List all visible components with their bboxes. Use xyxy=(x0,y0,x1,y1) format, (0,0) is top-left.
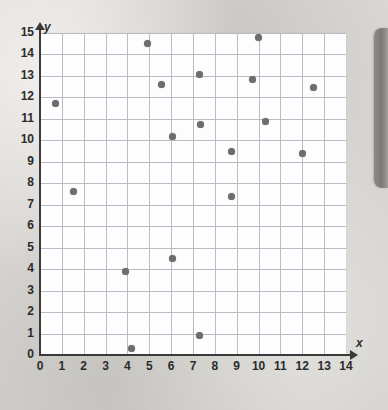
y-tick-label: 3 xyxy=(14,283,34,297)
gridline-horizontal xyxy=(40,334,346,335)
gridline-horizontal xyxy=(40,76,346,77)
gridline-vertical xyxy=(106,33,107,355)
y-tick-label: 8 xyxy=(14,175,34,189)
y-tick-label: 12 xyxy=(14,89,34,103)
y-axis-label: y xyxy=(44,20,51,34)
gridline-vertical xyxy=(259,33,260,355)
x-tick-label: 14 xyxy=(335,359,357,373)
data-point xyxy=(310,84,317,91)
gridline-vertical xyxy=(171,33,172,355)
y-tick-label: 6 xyxy=(14,218,34,232)
gridline-vertical xyxy=(193,33,194,355)
x-tick-label: 4 xyxy=(116,359,138,373)
gridline-vertical xyxy=(324,33,325,355)
y-tick-label: 4 xyxy=(14,261,34,275)
gridline-vertical xyxy=(215,33,216,355)
gridline-horizontal xyxy=(40,33,346,34)
x-tick-label: 8 xyxy=(204,359,226,373)
data-point xyxy=(158,81,165,88)
gridline-horizontal xyxy=(40,291,346,292)
data-point xyxy=(169,255,176,262)
gridline-horizontal xyxy=(40,248,346,249)
data-point xyxy=(262,118,269,125)
scatter-plot: x y 01234567891011121314 012345678910111… xyxy=(0,0,388,410)
gridline-horizontal xyxy=(40,183,346,184)
y-tick-label: 14 xyxy=(14,46,34,60)
data-point xyxy=(122,268,129,275)
y-tick-label: 11 xyxy=(14,111,34,125)
x-tick-label: 6 xyxy=(160,359,182,373)
x-axis-label: x xyxy=(356,336,363,350)
data-point xyxy=(144,40,151,47)
gridline-vertical xyxy=(237,33,238,355)
y-tick-label: 13 xyxy=(14,68,34,82)
gridline-horizontal xyxy=(40,97,346,98)
y-tick-label: 5 xyxy=(14,240,34,254)
y-tick-label: 2 xyxy=(14,304,34,318)
y-tick-label: 9 xyxy=(14,154,34,168)
x-tick-label: 7 xyxy=(182,359,204,373)
x-tick-label: 11 xyxy=(269,359,291,373)
x-tick-label: 12 xyxy=(291,359,313,373)
data-point xyxy=(228,193,235,200)
data-point xyxy=(299,150,306,157)
gridline-vertical xyxy=(280,33,281,355)
y-tick-label: 15 xyxy=(14,25,34,39)
gridline-vertical xyxy=(62,33,63,355)
y-axis-line xyxy=(39,30,41,356)
x-tick-label: 1 xyxy=(51,359,73,373)
x-tick-label: 9 xyxy=(226,359,248,373)
y-tick-label: 1 xyxy=(14,326,34,340)
gridline-vertical xyxy=(84,33,85,355)
gridline-horizontal xyxy=(40,226,346,227)
x-tick-label: 13 xyxy=(313,359,335,373)
x-tick-label: 0 xyxy=(29,359,51,373)
x-tick-label: 5 xyxy=(138,359,160,373)
gridline-horizontal xyxy=(40,162,346,163)
grid xyxy=(40,33,346,355)
x-axis-line xyxy=(40,354,352,356)
data-point xyxy=(255,34,262,41)
y-tick-label: 10 xyxy=(14,132,34,146)
gridline-horizontal xyxy=(40,119,346,120)
gridline-vertical xyxy=(302,33,303,355)
x-tick-label: 2 xyxy=(73,359,95,373)
gridline-vertical xyxy=(127,33,128,355)
data-point xyxy=(249,76,256,83)
x-tick-label: 10 xyxy=(248,359,270,373)
gridline-horizontal xyxy=(40,312,346,313)
x-tick-label: 3 xyxy=(95,359,117,373)
y-tick-label: 0 xyxy=(14,347,34,361)
gridline-horizontal xyxy=(40,54,346,55)
y-tick-label: 7 xyxy=(14,197,34,211)
gridline-horizontal xyxy=(40,269,346,270)
gridline-vertical xyxy=(149,33,150,355)
data-point xyxy=(169,133,176,140)
gridline-horizontal xyxy=(40,140,346,141)
data-point xyxy=(197,121,204,128)
gridline-horizontal xyxy=(40,205,346,206)
plot-area xyxy=(40,33,346,355)
data-point xyxy=(228,148,235,155)
